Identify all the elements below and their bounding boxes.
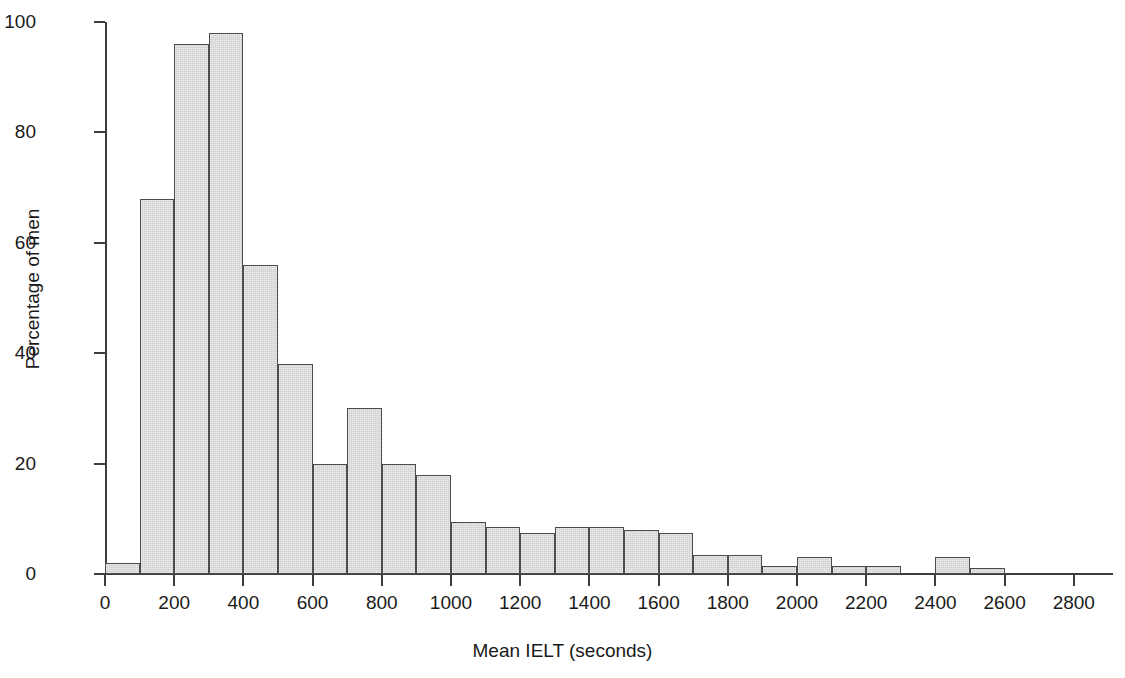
histogram-bar [347,408,382,574]
x-tick-mark [1073,575,1075,586]
x-tick-mark [658,575,660,586]
y-tick-label: 80 [0,122,36,141]
x-tick-mark [104,575,106,586]
histogram-bar [243,265,278,574]
y-axis-label: Percentage of men [22,159,44,419]
y-tick-label: 100 [0,12,36,31]
x-axis-label: Mean IELT (seconds) [0,640,1125,662]
y-tick-mark [94,21,105,23]
x-tick-label: 2800 [1029,592,1119,614]
x-tick-mark [796,575,798,586]
histogram-bar [797,557,832,574]
histogram-figure: 020406080100 020040060080010001200140016… [0,0,1125,678]
histogram-bar [555,527,590,574]
y-tick-mark [94,242,105,244]
x-tick-mark [450,575,452,586]
histogram-bar [174,44,209,574]
histogram-bar [520,533,555,574]
histogram-bar [140,199,175,574]
histogram-bar [278,364,313,574]
plot-area [105,22,1115,574]
histogram-bar [659,533,694,574]
histogram-bar [209,33,244,574]
x-tick-mark [242,575,244,586]
histogram-bar [486,527,521,574]
y-tick-mark [94,131,105,133]
histogram-bar [313,464,348,574]
histogram-bar [728,555,763,574]
histogram-bar [105,563,140,574]
histogram-bar [866,566,901,574]
y-tick-mark [94,352,105,354]
y-tick-label: 20 [0,454,36,473]
x-tick-mark [173,575,175,586]
histogram-bar [935,557,970,574]
histogram-bar [832,566,867,574]
x-tick-mark [381,575,383,586]
x-tick-mark [312,575,314,586]
histogram-bar [624,530,659,574]
x-tick-mark [934,575,936,586]
x-tick-mark [588,575,590,586]
histogram-bar [970,568,1005,574]
x-tick-mark [519,575,521,586]
x-tick-mark [1004,575,1006,586]
y-tick-label: 0 [0,564,36,583]
histogram-bar [451,522,486,574]
x-tick-mark [865,575,867,586]
histogram-bar [762,566,797,574]
histogram-bar [382,464,417,574]
x-tick-mark [727,575,729,586]
histogram-bar [589,527,624,574]
histogram-bar [416,475,451,574]
y-tick-mark [94,463,105,465]
histogram-bar [693,555,728,574]
